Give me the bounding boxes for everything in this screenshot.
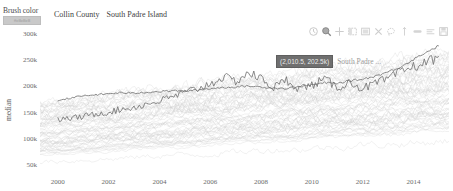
- tap-select-icon[interactable]: [360, 26, 371, 37]
- reset-icon[interactable]: [308, 26, 319, 37]
- x-axis-tick: 2004: [152, 178, 166, 186]
- hover-icon[interactable]: [425, 26, 436, 37]
- x-axis-tick: 2014: [406, 178, 420, 186]
- y-axis-tick: 200k: [23, 82, 37, 90]
- legend: Collin County South Padre Island: [54, 8, 167, 20]
- x-axis-tick: 2012: [356, 178, 370, 186]
- brush-color-label: Brush color: [3, 6, 47, 15]
- series-lines: [40, 24, 449, 175]
- close-icon[interactable]: [373, 26, 384, 37]
- x-axis-tick: 2002: [102, 178, 116, 186]
- box-select-icon[interactable]: [347, 26, 358, 37]
- plot-canvas[interactable]: [40, 24, 449, 175]
- hover-coordinate-badge: (2,010.5, 202.5k): [276, 55, 333, 68]
- x-axis-tick: 2006: [203, 178, 217, 186]
- box-zoom-icon[interactable]: [321, 26, 332, 37]
- x-axis-tick: 2010: [305, 178, 319, 186]
- y-axis-tick: 50k: [27, 161, 38, 169]
- y-axis-tick: 250k: [23, 56, 37, 64]
- crosshair-icon[interactable]: [334, 26, 345, 37]
- legend-item-south-padre-island[interactable]: South Padre Island: [107, 10, 167, 19]
- pan-icon[interactable]: [399, 26, 410, 37]
- x-axis-tick: 2000: [51, 178, 65, 186]
- legend-item-collin-county[interactable]: Collin County: [54, 10, 100, 19]
- y-axis-ticks: 50k100k150k200k250k300k: [0, 22, 37, 191]
- hover-series-label: South Padre ...: [337, 57, 381, 66]
- wheel-zoom-icon[interactable]: [412, 26, 423, 37]
- y-axis-tick: 300k: [23, 30, 37, 38]
- chart-application: Brush color #c8c8c8 Collin County South …: [0, 0, 453, 191]
- lasso-select-icon[interactable]: [386, 26, 397, 37]
- y-axis-tick: 150k: [23, 109, 37, 117]
- x-axis-tick: 2008: [254, 178, 268, 186]
- save-icon[interactable]: [438, 26, 449, 37]
- plot-region: median 50k100k150k200k250k300k 200020022…: [0, 22, 453, 191]
- plot-toolbar: [308, 23, 449, 40]
- hover-tooltip: (2,010.5, 202.5k) South Padre ...: [276, 55, 381, 68]
- y-axis-tick: 100k: [23, 135, 37, 143]
- x-axis-ticks: 20002002200420062008201020122014: [40, 175, 449, 191]
